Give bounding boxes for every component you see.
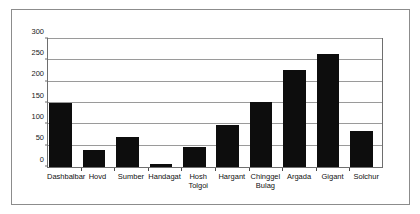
x-axis-category-label: Sumber [114,172,148,181]
bar[interactable] [250,102,273,167]
bar[interactable] [283,70,306,167]
y-axis-tick-label: 300 [31,28,44,36]
y-axis-tick-label: 0 [40,156,44,164]
bar[interactable] [350,131,373,167]
x-axis-tick-mark [349,168,350,171]
figure-outer-frame: 050100150200250300 DashbalbarHovdSumberH… [11,9,410,205]
x-axis-tick-mark [249,168,250,171]
y-axis-tick-label: 50 [36,134,44,142]
bar-slot [148,39,181,167]
x-axis-category-label: Hosh Tolgoi [181,172,215,190]
bars-group [48,39,382,167]
bar[interactable] [317,54,340,167]
x-axis-category-label: Solchur [349,172,383,181]
x-axis-tick-mark [282,168,283,171]
bar-chart: 050100150200250300 DashbalbarHovdSumberH… [16,14,405,200]
bar[interactable] [216,125,239,167]
x-axis-category-label: Gigant [316,172,350,181]
y-axis-tick-label: 200 [31,70,44,78]
x-axis-tick-mark [181,168,182,171]
x-axis-category-label: Argada [282,172,316,181]
x-axis-category-label: Hovd [81,172,115,181]
bar[interactable] [49,103,72,167]
bar-slot [349,39,382,167]
bar[interactable] [83,150,106,167]
x-axis-labels-group: DashbalbarHovdSumberHandagatHosh TolgoiH… [47,168,383,202]
x-axis-tick-mark [148,168,149,171]
x-axis-tick-mark [215,168,216,171]
y-axis-tick-label: 150 [31,92,44,100]
x-axis-tick-mark [316,168,317,171]
x-axis-tick-mark [114,168,115,171]
x-axis-category-label: Chinggel Bulag [249,172,283,190]
bar-slot [182,39,215,167]
bar[interactable] [183,147,206,167]
bar-slot [315,39,348,167]
bar[interactable] [116,137,139,167]
x-axis-category-label: Handagat [148,172,182,181]
bar-slot [81,39,114,167]
bar-slot [215,39,248,167]
x-axis-category-label: Hargant [215,172,249,181]
bar[interactable] [150,164,173,167]
x-axis-tick-mark [81,168,82,171]
bar-slot [48,39,81,167]
bar-slot [115,39,148,167]
bar-slot [282,39,315,167]
y-axis-tick-label: 250 [31,49,44,57]
bar-slot [248,39,281,167]
y-axis-tick-label: 100 [31,113,44,121]
plot-area: 050100150200250300 [47,38,383,168]
x-axis-category-label: Dashbalbar [47,172,81,181]
